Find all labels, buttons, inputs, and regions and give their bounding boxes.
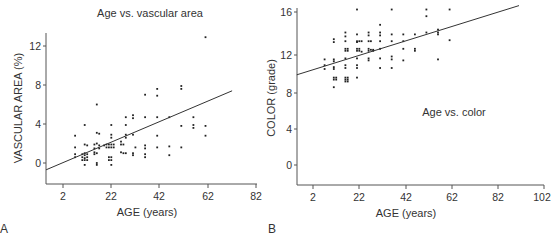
data-point — [391, 9, 393, 11]
data-point — [96, 164, 98, 166]
chart-b-points — [324, 0, 451, 88]
data-point — [356, 41, 358, 43]
data-point — [345, 77, 347, 79]
data-point — [132, 117, 134, 119]
data-point — [402, 60, 404, 62]
data-point — [96, 162, 98, 164]
data-point — [368, 40, 370, 42]
chart-a-y-axis-label: VASCULAR AREA (%) — [12, 53, 24, 163]
chart-b-xtick-102: 102 — [533, 191, 551, 203]
data-point — [168, 146, 170, 148]
data-point — [156, 147, 158, 149]
data-point — [74, 147, 76, 149]
data-point — [156, 135, 158, 137]
data-point — [345, 79, 347, 81]
data-point — [426, 9, 428, 11]
data-point — [358, 48, 360, 50]
data-point — [168, 154, 170, 156]
chart-b-xtick-2: 2 — [310, 191, 316, 203]
data-point — [347, 50, 349, 52]
data-point — [333, 38, 335, 40]
panel-letter-b: B — [268, 222, 276, 235]
data-point — [391, 67, 393, 69]
chart-a-ytick-12: 12 — [29, 40, 41, 52]
data-point — [356, 34, 358, 36]
data-point — [347, 79, 349, 81]
data-point — [156, 88, 158, 90]
data-point — [144, 94, 146, 96]
chart-a-points — [74, 36, 206, 166]
data-point — [193, 127, 195, 129]
data-point — [345, 36, 347, 38]
data-point — [110, 144, 112, 146]
chart-a: Age vs. vascular area 12 8 4 0 2 22 42 6… — [0, 7, 262, 235]
data-point — [333, 41, 335, 43]
data-point — [156, 95, 158, 97]
chart-a-xtick-22: 22 — [105, 190, 117, 202]
data-point — [356, 9, 358, 11]
data-point — [110, 159, 112, 161]
data-point — [335, 79, 337, 81]
chart-b-y-axis-label: COLOR (grade) — [265, 59, 277, 137]
chart-b-x-axis-label: AGE (years) — [376, 207, 437, 219]
data-point — [144, 148, 146, 150]
data-point — [106, 147, 108, 149]
data-point — [379, 67, 381, 69]
data-point — [110, 164, 112, 166]
data-point — [180, 88, 182, 90]
data-point — [379, 58, 381, 60]
data-point — [86, 145, 88, 147]
chart-a-title: Age vs. vascular area — [97, 7, 204, 19]
data-point — [132, 152, 134, 154]
data-point — [345, 81, 347, 83]
data-point — [345, 32, 347, 34]
data-point — [94, 153, 96, 155]
data-point — [426, 15, 428, 17]
data-point — [84, 157, 86, 159]
data-point — [144, 156, 146, 158]
data-point — [345, 48, 347, 50]
data-point — [391, 34, 393, 36]
data-point — [368, 32, 370, 34]
data-point — [205, 36, 207, 38]
chart-a-regression-line — [46, 91, 232, 170]
data-point — [333, 77, 335, 79]
data-point — [370, 49, 372, 51]
chart-a-xtick-2: 2 — [60, 190, 66, 202]
data-point — [125, 116, 127, 118]
data-point — [96, 132, 98, 134]
chart-b-xtick-62: 62 — [446, 191, 458, 203]
data-point — [361, 40, 363, 42]
data-point — [356, 64, 358, 66]
panel-letter-a: A — [0, 222, 8, 235]
data-point — [81, 156, 83, 158]
data-point — [356, 50, 358, 52]
data-point — [94, 144, 96, 146]
data-point — [84, 159, 86, 161]
data-point — [125, 152, 127, 154]
chart-b-title: Age vs. color — [422, 106, 486, 118]
data-point — [94, 151, 96, 153]
data-point — [113, 147, 115, 149]
data-point — [379, 40, 381, 42]
chart-a-ytick-4: 4 — [35, 118, 41, 130]
chart-a-ytick-0: 0 — [35, 157, 41, 169]
data-point — [356, 58, 358, 60]
data-point — [108, 156, 110, 158]
chart-b-regression-line — [297, 6, 519, 75]
chart-b-xtick-22: 22 — [353, 191, 365, 203]
data-point — [180, 147, 182, 149]
data-point — [345, 40, 347, 42]
data-point — [379, 32, 381, 34]
data-point — [333, 79, 335, 81]
figure: Age vs. vascular area 12 8 4 0 2 22 42 6… — [0, 0, 554, 235]
data-point — [345, 67, 347, 69]
data-point — [368, 50, 370, 52]
data-point — [120, 151, 122, 153]
data-point — [414, 34, 416, 36]
data-point — [132, 134, 134, 136]
data-point — [414, 48, 416, 50]
chart-a-xtick-82: 82 — [250, 190, 262, 202]
data-point — [437, 32, 439, 34]
data-point — [135, 147, 137, 149]
